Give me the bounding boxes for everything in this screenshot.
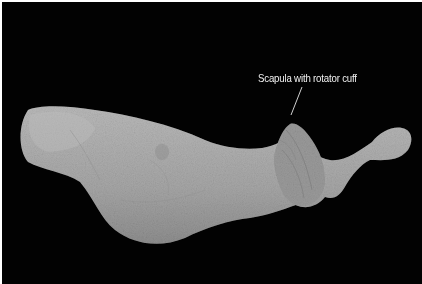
- specimen-illustration: [2, 2, 422, 284]
- specimen-photo: [2, 2, 422, 284]
- image-frame: Scapula with rotator cuff: [0, 0, 422, 284]
- annotation-label-scapula: Scapula with rotator cuff: [258, 72, 357, 84]
- annotation-leader-line: [291, 87, 302, 115]
